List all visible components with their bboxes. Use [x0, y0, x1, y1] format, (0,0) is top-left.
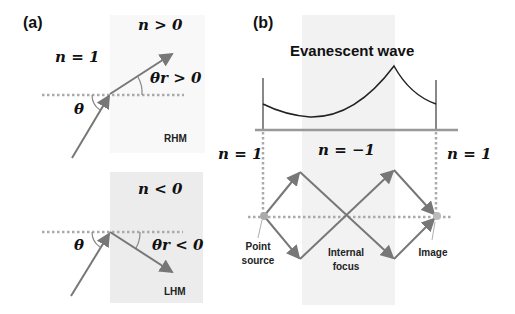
rhm-index: n > 0 [138, 16, 182, 34]
point-source-dot [260, 212, 268, 220]
internal-focus-label-line2: focus [321, 260, 371, 274]
panel-a-label: (a) [23, 14, 43, 32]
source-pointer [258, 220, 262, 238]
lhm-index: n < 0 [138, 180, 182, 198]
point-source-label-line1: Point [238, 240, 278, 254]
medium-left-index: n = 1 [55, 48, 99, 66]
rhm-label: RHM [164, 133, 187, 144]
point-source-label: Point source [238, 240, 278, 268]
image-label: Image [413, 246, 453, 260]
figure-canvas: (a) n = 1 n > 0 θr > 0 θ RHM n < 0 θ θr … [0, 0, 515, 314]
region-right-index: n = 1 [447, 145, 491, 163]
image-dot [433, 212, 441, 220]
evanescent-wave-title: Evanescent wave [290, 42, 414, 59]
lhm-label: LHM [164, 286, 186, 297]
refracted-angle-label-top: θr > 0 [150, 69, 201, 87]
region-left-index: n = 1 [218, 145, 262, 163]
ray-segment [394, 170, 434, 214]
internal-focus-label-line1: Internal [321, 246, 371, 260]
incident-angle-arc-bottom [92, 232, 100, 247]
internal-focus-label: Internal focus [321, 246, 371, 274]
ray-segment [264, 173, 299, 216]
image-pointer [432, 222, 435, 240]
incident-angle-arc-top [92, 95, 100, 110]
incident-angle-label-bottom: θ [74, 236, 84, 254]
panel-b-label: (b) [253, 14, 273, 32]
incident-angle-label-top: θ [74, 100, 84, 118]
region-slab-index: n = −1 [318, 141, 375, 159]
point-source-label-line2: source [238, 254, 278, 268]
refracted-angle-label-bottom: θr < 0 [152, 236, 203, 254]
